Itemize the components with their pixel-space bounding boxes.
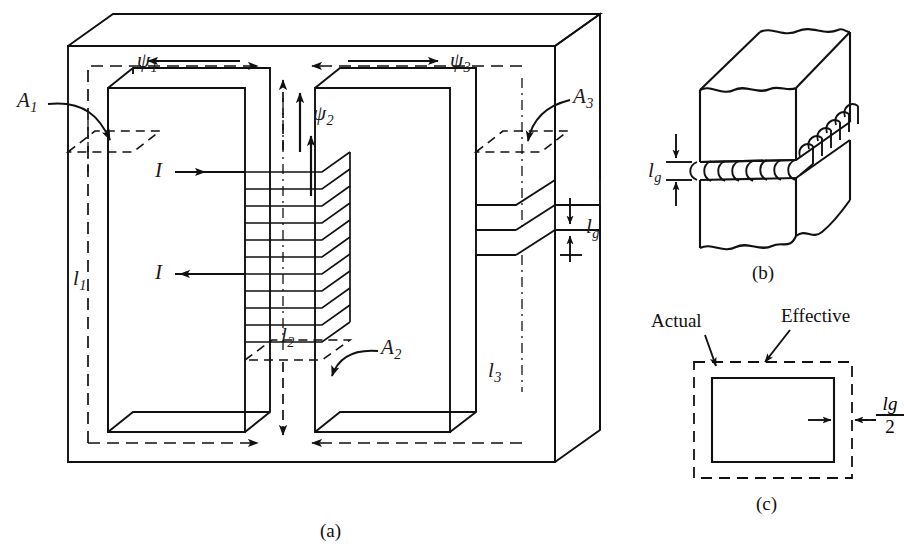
dimension-lg-panel-b: [666, 134, 692, 206]
coil-winding: [245, 152, 350, 342]
length-label-l2: l2: [281, 325, 294, 349]
leader-effective: [765, 330, 790, 362]
core-outline-panel-a: [68, 14, 600, 462]
length-label-l1: l1: [73, 268, 86, 292]
left-window: [108, 68, 270, 432]
flux-path-loop-left: [88, 66, 258, 443]
cross-section-A2: [245, 340, 350, 360]
gap-half-fraction: lg 2: [876, 394, 904, 436]
flux-label-psi2: ψ2: [313, 103, 334, 127]
air-gap-slit: [476, 180, 600, 255]
area-label-A1: A1: [17, 90, 37, 114]
effective-label: Effective: [781, 305, 850, 327]
actual-label: Actual: [651, 310, 702, 332]
area-label-A3: A3: [573, 86, 593, 110]
cross-section-A1: [68, 131, 160, 152]
caption-panel-b: (b): [752, 262, 774, 284]
flux-label-psi1: ψ1: [137, 50, 158, 74]
current-label-top: I: [155, 160, 162, 181]
panel-b-core: [700, 29, 850, 249]
length-label-l3: l3: [488, 360, 501, 384]
leader-A3: [528, 100, 570, 141]
flux-label-psi3: ψ3: [450, 50, 471, 74]
leader-A2: [332, 351, 378, 376]
gap-label-panel-a: lg: [586, 216, 599, 240]
right-window: [315, 68, 476, 432]
caption-panel-c: (c): [756, 493, 777, 515]
right-leg-edges: [476, 14, 600, 462]
area-label-A2: A2: [381, 337, 401, 361]
current-label-bottom: I: [155, 262, 162, 283]
caption-panel-a: (a): [320, 520, 341, 542]
leader-A1: [48, 103, 110, 140]
leader-actual: [705, 335, 716, 366]
gap-label-panel-b: lg: [648, 160, 661, 184]
